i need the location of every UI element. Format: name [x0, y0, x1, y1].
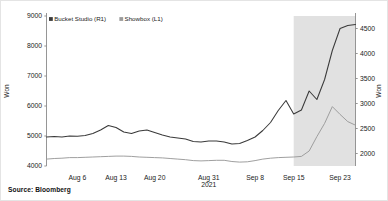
left-axis-tick-label: 7000 — [27, 72, 42, 79]
highlight-band — [294, 16, 356, 166]
right-axis-tick-label: 4500 — [360, 25, 375, 32]
left-axis-tick-label: 9000 — [27, 12, 42, 19]
right-axis-tick-label: 2500 — [360, 125, 375, 132]
left-axis-tick-label: 6000 — [27, 102, 42, 109]
legend-label-1: Showbox (L1) — [125, 15, 163, 22]
left-axis-tick-label: 8000 — [27, 42, 42, 49]
left-axis-title: Won — [3, 84, 10, 98]
legend-label-0: Bucket Studio (R1) — [54, 15, 106, 22]
chart-container: 400050006000700080009000Won2000250030003… — [0, 0, 388, 201]
x-axis-tick-label: Sep 15 — [283, 174, 305, 182]
legend-square-marker-0 — [49, 17, 53, 21]
right-axis-tick-label: 4000 — [360, 50, 375, 57]
x-axis-year-label: 2021 — [201, 181, 216, 188]
x-axis-tick-label: Aug 6 — [69, 174, 87, 182]
right-axis-tick-label: 3500 — [360, 75, 375, 82]
right-axis-tick-label: 3000 — [360, 100, 375, 107]
right-axis-title: Won — [375, 84, 382, 98]
right-axis-tick-label: 2000 — [360, 150, 375, 157]
x-axis-tick-label: Aug 20 — [144, 174, 166, 182]
x-axis-tick-label: Sep 23 — [329, 174, 351, 182]
left-axis-tick-label: 5000 — [27, 132, 42, 139]
x-axis-tick-label: Sep 8 — [246, 174, 264, 182]
x-axis-tick-label: Aug 13 — [105, 174, 127, 182]
left-axis-tick-label: 4000 — [27, 162, 42, 169]
line-chart: 400050006000700080009000Won2000250030003… — [0, 0, 388, 201]
legend-square-marker-1 — [119, 17, 123, 21]
source-note: Source: Bloomberg — [8, 186, 71, 193]
